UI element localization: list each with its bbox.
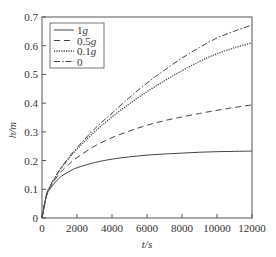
x-tick-label: 12000 (238, 222, 266, 234)
line-chart: 00.10.20.30.40.50.60.7 02000400060008000… (0, 0, 276, 257)
y-axis-ticks: 00.10.20.30.40.50.60.7 (24, 11, 46, 224)
y-tick-label: 0.1 (24, 183, 38, 195)
x-axis-label: t/s (142, 238, 152, 250)
series-line-1g (42, 151, 252, 218)
x-tick-label: 10000 (203, 222, 231, 234)
x-tick-label: 4000 (101, 222, 124, 234)
legend: 1g0.5g0.1g0 (50, 23, 104, 68)
x-tick-label: 6000 (136, 222, 159, 234)
y-tick-label: 0.6 (24, 40, 38, 52)
x-tick-label: 2000 (66, 222, 89, 234)
y-tick-label: 0.4 (24, 97, 38, 109)
y-tick-label: 0.5 (24, 68, 38, 80)
y-axis-label: h/m (6, 122, 18, 139)
y-tick-label: 0 (33, 212, 39, 224)
y-tick-label: 0.7 (24, 11, 38, 23)
legend-label: 0 (77, 56, 83, 68)
x-tick-label: 0 (39, 222, 45, 234)
series-line-0_5g (42, 105, 252, 218)
y-tick-label: 0.3 (24, 126, 38, 138)
x-axis-ticks: 020004000600080001000012000 (39, 214, 266, 234)
x-tick-label: 8000 (171, 222, 194, 234)
y-tick-label: 0.2 (24, 155, 38, 167)
series-line-0_1g (42, 43, 252, 218)
